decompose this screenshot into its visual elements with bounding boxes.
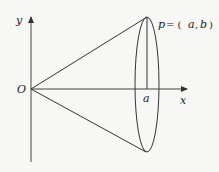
svg-text:= (: = ( xyxy=(166,19,182,30)
svg-text:): ) xyxy=(209,19,213,30)
svg-text:,: , xyxy=(195,19,198,30)
origin-label: O xyxy=(17,83,26,96)
point-p-label: p = ( a , b ) xyxy=(158,18,213,31)
svg-text:p: p xyxy=(158,18,165,31)
y-axis-label: y xyxy=(15,14,23,27)
svg-text:b: b xyxy=(200,18,207,31)
svg-text:a: a xyxy=(188,18,195,31)
cone-upper-edge xyxy=(31,17,147,89)
cone-lower-edge xyxy=(31,89,146,152)
x-axis-label: x xyxy=(180,94,187,107)
a-tick-label: a xyxy=(143,92,150,105)
cone-diagram: y x O a p = ( a , b ) xyxy=(0,0,219,172)
